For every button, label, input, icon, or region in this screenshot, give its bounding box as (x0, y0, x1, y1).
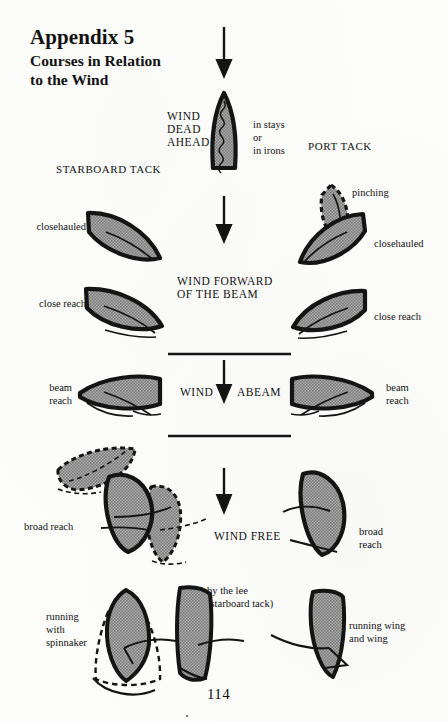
appendix-page: Appendix 5 Courses in Relation to the Wi… (0, 0, 448, 722)
boat-close-reach-starboard (86, 289, 162, 337)
wind-arrow-1 (215, 27, 232, 79)
boat-beam-reach-starboard (80, 377, 161, 417)
boat-running-spinnaker (93, 590, 176, 694)
boat-beam-reach-port (291, 377, 372, 417)
boat-closehauled-port (300, 214, 365, 263)
wind-arrow-3 (216, 360, 233, 404)
points-of-sail-diagram (0, 0, 448, 722)
boat-close-reach-port (293, 291, 365, 338)
abeam-rules (168, 354, 291, 436)
wind-arrow-2 (215, 196, 232, 244)
boat-by-the-lee (177, 587, 244, 679)
boat-broad-reach-port (283, 473, 344, 555)
boat-closehauled-starboard (88, 213, 160, 260)
boat-broad-reach-starboard-ghost-right (147, 486, 208, 564)
boat-running-wing-and-wing (271, 591, 347, 677)
boat-in-stays (212, 93, 235, 173)
wind-arrow-4 (216, 468, 233, 515)
